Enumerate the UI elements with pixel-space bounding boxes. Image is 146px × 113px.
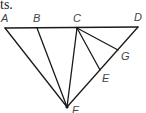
label-D: D [134,11,142,23]
point-F-dot [65,105,68,108]
label-E: E [102,72,110,84]
point-C-dot [76,27,78,29]
labels: A B C D G E F [0,11,142,113]
geometry-diagram: A B C D G E F [0,0,146,113]
label-C: C [73,12,81,24]
segment-DF [67,27,138,107]
segment-AD [5,27,138,28]
segment-BF [37,28,67,107]
segments [5,27,138,107]
label-A: A [0,12,8,24]
label-F: F [72,104,80,113]
label-B: B [33,12,40,24]
label-G: G [121,50,130,62]
segment-AF [5,28,67,107]
segment-CF [67,28,77,107]
